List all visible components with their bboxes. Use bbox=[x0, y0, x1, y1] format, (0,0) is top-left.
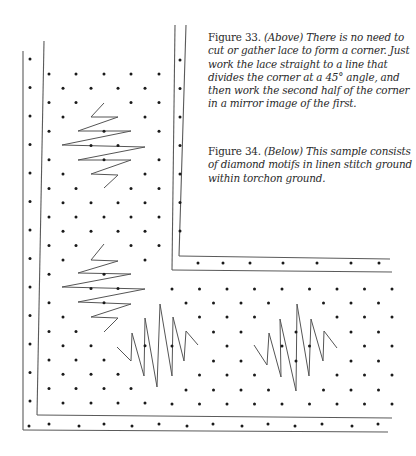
pin-dot bbox=[90, 401, 93, 404]
pin-dot bbox=[226, 345, 229, 348]
pin-dot bbox=[377, 331, 380, 334]
pin-dot bbox=[226, 403, 229, 406]
pin-dot bbox=[130, 387, 133, 390]
pin-dot bbox=[198, 288, 201, 291]
pin-dot bbox=[391, 374, 394, 377]
pin-dot bbox=[185, 389, 188, 392]
pin-dot bbox=[158, 187, 161, 190]
pin-dots bbox=[28, 58, 394, 428]
pin-dot bbox=[377, 360, 380, 363]
pin-dot bbox=[253, 374, 256, 377]
pin-dot bbox=[253, 288, 256, 291]
pin-dot bbox=[240, 302, 243, 305]
pin-dot bbox=[48, 130, 51, 133]
pin-dot bbox=[186, 425, 189, 428]
pin-dot bbox=[267, 302, 270, 305]
pin-dot bbox=[48, 244, 51, 247]
pin-dot bbox=[29, 400, 32, 403]
pin-dot bbox=[48, 301, 51, 304]
pin-dot bbox=[90, 230, 93, 233]
pin-dot bbox=[179, 173, 182, 176]
pin-dot bbox=[198, 403, 201, 406]
pin-dot bbox=[377, 423, 380, 426]
pin-dot bbox=[350, 302, 353, 305]
pin-dot bbox=[253, 316, 256, 319]
pin-dot bbox=[179, 144, 182, 147]
pin-dot bbox=[185, 302, 188, 305]
pin-dot bbox=[48, 158, 51, 161]
pin-dot bbox=[391, 316, 394, 319]
pin-dot bbox=[377, 389, 380, 392]
pin-dot bbox=[62, 373, 65, 376]
pin-dot bbox=[48, 216, 51, 219]
pin-dot bbox=[377, 302, 380, 305]
pin-dot bbox=[226, 288, 229, 291]
pin-dot bbox=[350, 389, 353, 392]
pin-dot bbox=[62, 316, 65, 319]
pin-dot bbox=[322, 302, 325, 305]
pin-dot bbox=[240, 331, 243, 334]
pin-dot bbox=[62, 201, 65, 204]
pin-dot bbox=[212, 423, 215, 426]
pin-dot bbox=[130, 187, 133, 190]
pin-dot bbox=[179, 87, 182, 90]
pin-dot bbox=[48, 387, 51, 390]
pin-dot bbox=[267, 389, 270, 392]
pin-dot bbox=[117, 373, 120, 376]
pin-dot bbox=[48, 359, 51, 362]
pin-dot bbox=[322, 389, 325, 392]
right-horizontal-zigzag bbox=[254, 304, 337, 391]
corner-outer-horizontal-line bbox=[172, 270, 392, 272]
pin-dot bbox=[212, 331, 215, 334]
pin-dot bbox=[158, 101, 161, 104]
pin-dot bbox=[350, 262, 353, 265]
pin-dot bbox=[75, 387, 78, 390]
outer-bottom-line bbox=[23, 430, 388, 432]
pin-dot bbox=[117, 401, 120, 404]
pin-dot bbox=[158, 73, 161, 76]
pin-dot bbox=[29, 58, 32, 61]
pin-dot bbox=[117, 87, 120, 90]
pin-dot bbox=[29, 172, 32, 175]
upper-vertical-zigzag bbox=[62, 103, 145, 188]
pin-dot bbox=[282, 262, 285, 265]
pin-dot bbox=[29, 143, 32, 146]
pin-dot bbox=[29, 343, 32, 346]
pin-dot bbox=[103, 273, 106, 276]
pin-dot bbox=[90, 344, 93, 347]
pin-dot bbox=[336, 374, 339, 377]
pin-dot bbox=[75, 101, 78, 104]
pin-dot bbox=[29, 115, 32, 118]
pin-dot bbox=[62, 87, 65, 90]
pin-dot bbox=[90, 87, 93, 90]
pin-dot bbox=[198, 316, 201, 319]
pin-dot bbox=[240, 360, 243, 363]
pin-dot bbox=[391, 288, 394, 291]
pin-dot bbox=[130, 101, 133, 104]
pin-dot bbox=[281, 345, 284, 348]
pin-dot bbox=[158, 216, 161, 219]
pin-dot bbox=[363, 345, 366, 348]
pin-dot bbox=[62, 230, 65, 233]
pin-dot bbox=[90, 201, 93, 204]
pin-dot bbox=[212, 389, 215, 392]
pin-dot bbox=[295, 331, 298, 334]
pin-dot bbox=[62, 401, 65, 404]
pin-dot bbox=[171, 403, 174, 406]
pin-dot bbox=[103, 359, 106, 362]
pin-dot bbox=[90, 287, 93, 290]
pin-dot bbox=[48, 330, 51, 333]
pin-dot bbox=[158, 130, 161, 133]
pin-dot bbox=[363, 316, 366, 319]
pin-dot bbox=[144, 173, 147, 176]
pin-dot bbox=[130, 244, 133, 247]
figure-33-label: Figure 33. bbox=[208, 31, 261, 43]
pin-dot bbox=[321, 423, 324, 426]
pin-dot bbox=[117, 201, 120, 204]
pin-dot bbox=[336, 288, 339, 291]
pin-dot bbox=[144, 201, 147, 204]
pin-dot bbox=[281, 403, 284, 406]
pin-dot bbox=[103, 423, 106, 426]
pin-dot bbox=[267, 423, 270, 426]
pin-dot bbox=[158, 158, 161, 161]
